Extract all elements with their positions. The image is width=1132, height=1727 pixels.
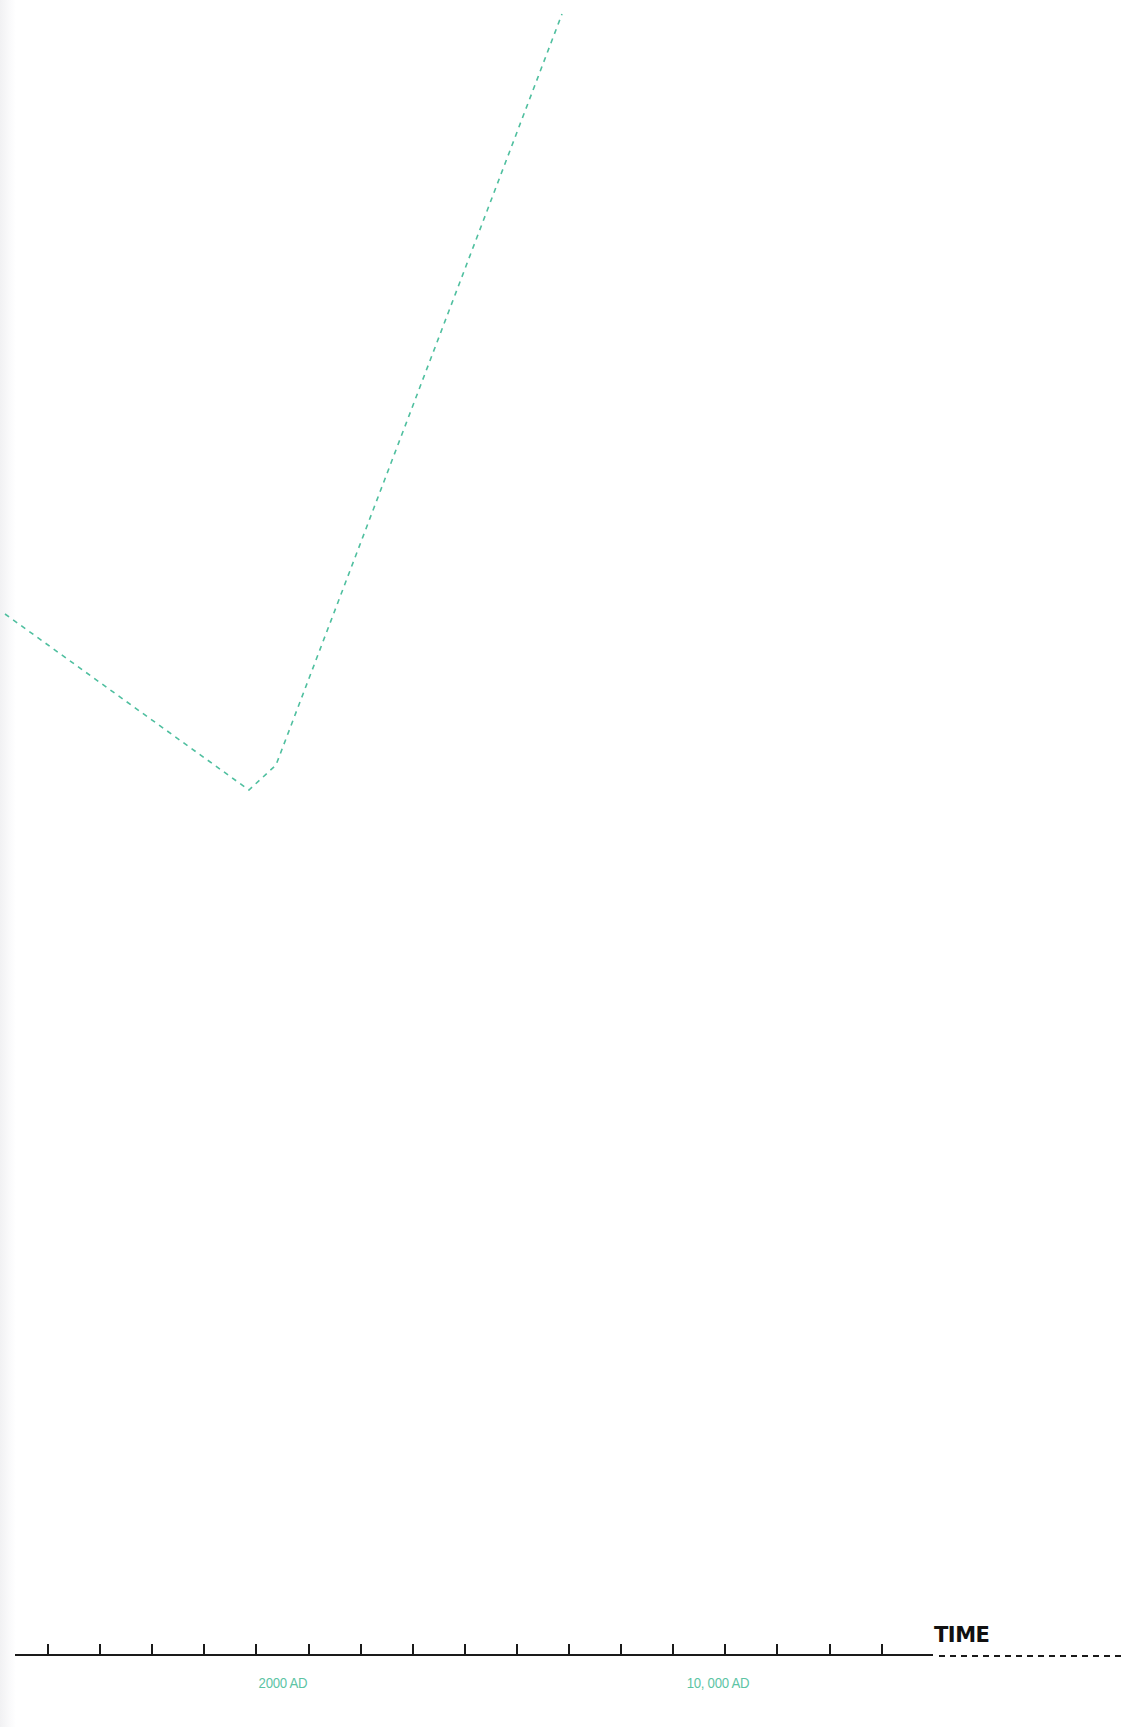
x-tick-label-2000-ad: 2000 AD xyxy=(259,1674,308,1691)
x-axis-title: TIME xyxy=(934,1623,989,1647)
x-axis-ticks xyxy=(48,1644,882,1655)
chart-canvas xyxy=(0,0,1132,1727)
x-tick-label-10000-ad: 10, 000 AD xyxy=(687,1674,750,1691)
trend-line xyxy=(5,14,562,790)
